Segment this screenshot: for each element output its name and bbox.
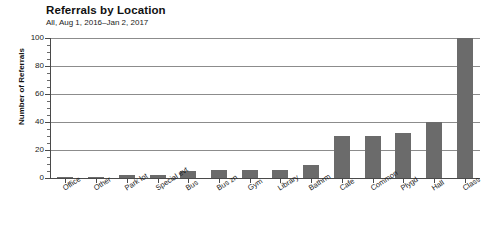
bar[interactable] [426, 122, 442, 178]
bar[interactable] [457, 38, 473, 178]
chart-header: Referrals by Location All, Aug 1, 2016–J… [46, 4, 166, 28]
y-axis-tick-label: 80 [18, 62, 44, 70]
bar[interactable] [272, 170, 288, 178]
y-axis-tick-label: 40 [18, 118, 44, 126]
y-axis-tick-label: 20 [18, 146, 44, 154]
bar-series [50, 38, 480, 178]
bar[interactable] [211, 170, 227, 178]
y-axis-tick-label: 0 [18, 174, 44, 182]
y-axis-tick-label: 100 [18, 34, 44, 42]
x-axis-tick-label: Bus [184, 178, 200, 193]
y-axis-tick-label: 60 [18, 90, 44, 98]
chart-subtitle: All, Aug 1, 2016–Jan 2, 2017 [46, 18, 166, 28]
chart-title: Referrals by Location [46, 4, 166, 17]
bar[interactable] [365, 136, 381, 178]
bar[interactable] [303, 165, 319, 178]
y-axis-labels: 020406080100 [16, 0, 44, 232]
bar[interactable] [395, 133, 411, 178]
bar[interactable] [242, 170, 258, 178]
x-axis-tick-label: Hall [430, 178, 446, 193]
bar[interactable] [334, 136, 350, 178]
chart-container: Referrals by Location All, Aug 1, 2016–J… [0, 0, 493, 232]
